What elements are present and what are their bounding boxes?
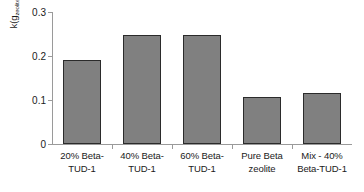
y-tick-label: 0.3 bbox=[32, 7, 46, 18]
bar bbox=[303, 93, 341, 144]
y-axis-title-subscript-zeolite: zeolite bbox=[13, 0, 20, 16]
x-tick-label-line: TUD-1 bbox=[172, 163, 232, 176]
x-tick-mark bbox=[172, 145, 173, 149]
x-tick-label-line: 40% Beta- bbox=[112, 150, 172, 163]
bar bbox=[243, 97, 281, 144]
bars-layer bbox=[52, 12, 352, 145]
bar-chart-figure: k(gzeolite-1min-1) 00.10.20.3 20% Beta-T… bbox=[0, 0, 364, 192]
x-tick-label: Pure Betazeolite bbox=[232, 150, 292, 175]
x-tick-label: 20% Beta-TUD-1 bbox=[52, 150, 112, 175]
x-tick-label: 60% Beta-TUD-1 bbox=[172, 150, 232, 175]
y-tick-label: 0.2 bbox=[32, 51, 46, 62]
x-tick-label-line: 60% Beta- bbox=[172, 150, 232, 163]
x-tick-label: Mix - 40%Beta-TUD-1 bbox=[292, 150, 352, 175]
x-tick-mark bbox=[232, 145, 233, 149]
y-tick-label: 0 bbox=[40, 139, 46, 150]
y-tick-label: 0.1 bbox=[32, 95, 46, 106]
x-tick-label-line: Pure Beta bbox=[232, 150, 292, 163]
x-tick-label: 40% Beta-TUD-1 bbox=[112, 150, 172, 175]
x-tick-mark bbox=[112, 145, 113, 149]
bar bbox=[183, 35, 221, 144]
x-tick-label-line: TUD-1 bbox=[52, 163, 112, 176]
x-tick-label-line: TUD-1 bbox=[112, 163, 172, 176]
x-tick-label-line: zeolite bbox=[232, 163, 292, 176]
y-axis-title: k(gzeolite-1min-1) bbox=[2, 0, 20, 52]
y-axis-title-prefix: k(g bbox=[8, 16, 19, 29]
bar bbox=[63, 60, 101, 144]
x-tick-label-line: Mix - 40% bbox=[292, 150, 352, 163]
x-axis-labels: 20% Beta-TUD-140% Beta-TUD-160% Beta-TUD… bbox=[52, 150, 352, 188]
x-tick-label-line: Beta-TUD-1 bbox=[292, 163, 352, 176]
x-tick-label-line: 20% Beta- bbox=[52, 150, 112, 163]
plot-area: 00.10.20.3 bbox=[52, 12, 352, 145]
x-tick-mark bbox=[292, 145, 293, 149]
bar bbox=[123, 35, 161, 144]
